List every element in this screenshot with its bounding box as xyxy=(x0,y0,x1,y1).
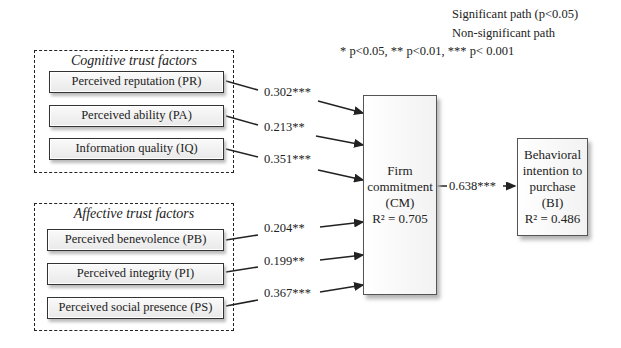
bi-r2: R² = 0.486 xyxy=(525,211,581,227)
cognitive-group-title: Cognitive trust factors xyxy=(35,53,233,69)
construct-behavioral-intention: Behavioral intention to purchase (BI) R²… xyxy=(517,138,588,236)
cm-line1: Firm xyxy=(387,163,412,179)
factor-perceived-reputation: Perceived reputation (PR) xyxy=(49,71,224,93)
coef-ps-cm: 0.367*** xyxy=(264,286,311,301)
cm-line2: commitment xyxy=(367,179,433,195)
bi-line4: (BI) xyxy=(542,195,564,211)
affective-group-title: Affective trust factors xyxy=(35,206,233,222)
factor-perceived-ability: Perceived ability (PA) xyxy=(49,105,224,127)
factor-perceived-integrity: Perceived integrity (PI) xyxy=(47,263,224,285)
coef-cm-bi: 0.638*** xyxy=(449,179,496,194)
coef-pr-cm: 0.302*** xyxy=(264,85,311,100)
bi-line2: intention to xyxy=(523,163,583,179)
coef-pb-cm: 0.204** xyxy=(264,221,305,236)
cm-r2: R² = 0.705 xyxy=(372,211,428,227)
coef-pa-cm: 0.213** xyxy=(264,120,305,135)
bi-line3: purchase xyxy=(529,179,575,195)
factor-perceived-social-presence: Perceived social presence (PS) xyxy=(47,297,224,319)
affective-group-bottom-edge xyxy=(34,330,234,331)
bi-line1: Behavioral xyxy=(524,147,581,163)
factor-perceived-benevolence: Perceived benevolence (PB) xyxy=(47,229,224,251)
factor-information-quality: Information quality (IQ) xyxy=(49,138,224,160)
coef-pi-cm: 0.199** xyxy=(264,254,305,269)
cm-line3: (CM) xyxy=(386,195,415,211)
construct-firm-commitment: Firm commitment (CM) R² = 0.705 xyxy=(363,95,437,295)
coef-iq-cm: 0.351*** xyxy=(264,152,311,167)
